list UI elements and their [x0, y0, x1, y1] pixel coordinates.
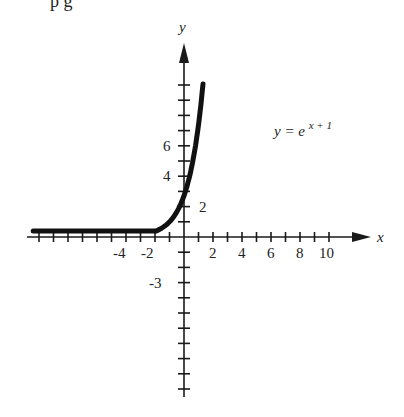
y-axis-label: y — [177, 19, 186, 35]
x-tick-label: 4 — [238, 245, 246, 261]
x-axis-arrow-icon — [352, 232, 371, 242]
exponential-function-graph: x y -4 -2 2 4 6 8 10 6 4 2 -3 y = e x + … — [0, 0, 404, 417]
y-tick-label: 6 — [163, 138, 171, 154]
y-tick-label: 4 — [163, 168, 171, 184]
x-tick-label: 2 — [209, 245, 217, 261]
y-axis-arrow-icon — [179, 43, 189, 63]
equation-exponent: x + 1 — [308, 119, 332, 131]
tick-labels: x y -4 -2 2 4 6 8 10 6 4 2 -3 y = e x + … — [113, 19, 384, 291]
exponential-curve — [33, 84, 203, 231]
equation-label: y = e x + 1 — [272, 119, 332, 139]
x-tick-label: -4 — [113, 245, 126, 261]
x-tick-label: 6 — [267, 245, 275, 261]
y-tick-label: 2 — [199, 199, 207, 215]
x-tick-label: 10 — [319, 245, 334, 261]
equation-base: y = e — [272, 123, 305, 139]
x-axis-label: x — [376, 229, 384, 245]
y-tick-label: -3 — [149, 275, 162, 291]
x-tick-label: 8 — [296, 245, 304, 261]
x-tick-label: -2 — [141, 245, 154, 261]
axes — [27, 43, 371, 397]
